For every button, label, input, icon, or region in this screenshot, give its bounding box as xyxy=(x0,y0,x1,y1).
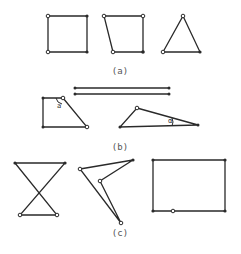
panel-b-parallel-lines xyxy=(74,87,171,96)
angle-label-a: a xyxy=(57,102,61,110)
panel-c-concave-polygon xyxy=(78,158,134,224)
panel-c-bowtie xyxy=(13,161,66,216)
geometry-diagram: (a) a α (b) xyxy=(0,0,241,254)
panel-b-triangle xyxy=(119,106,200,128)
panel-a-triangle xyxy=(161,14,201,54)
panel-a-label: (a) xyxy=(112,66,128,76)
panel-c-label: (c) xyxy=(112,228,128,238)
panel-b-label: (b) xyxy=(112,142,128,152)
panel-b-quadrilateral xyxy=(42,96,89,129)
angle-label-alpha: α xyxy=(168,117,173,125)
panel-c-rectangle xyxy=(151,158,226,212)
panel-a-square xyxy=(46,14,88,54)
panel-a-trapezoid xyxy=(102,14,145,54)
